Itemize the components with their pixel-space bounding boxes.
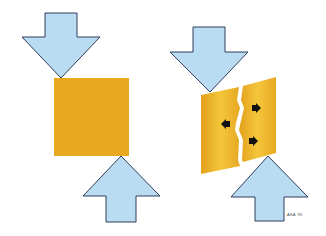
credit-label: ASA '95 <box>287 212 303 217</box>
intact-block-panel <box>22 13 160 222</box>
compression-diagram <box>0 0 326 236</box>
up-arrow-icon <box>83 156 160 222</box>
intact-block <box>54 78 129 156</box>
fragment-right <box>239 77 276 162</box>
fractured-block-panel <box>170 27 308 221</box>
down-arrow-icon <box>170 27 248 92</box>
down-arrow-icon <box>22 13 100 78</box>
fragment-left <box>201 87 240 174</box>
